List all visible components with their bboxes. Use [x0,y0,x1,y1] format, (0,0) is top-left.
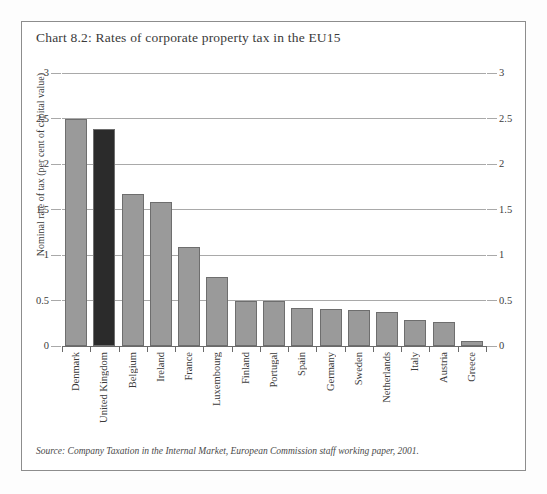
x-label-spain: Spain [296,352,307,376]
x-label-sweden: Sweden [353,352,364,385]
x-label-portugal: Portugal [268,352,279,388]
tick-stub-right-2 [487,164,497,165]
tick-stub-left-2.5 [51,118,61,119]
x-label-france: France [183,352,194,381]
x-label-greece: Greece [466,352,477,382]
y-tick-label-left-3: 3 [44,68,49,79]
x-label-finland: Finland [240,352,251,384]
y-tick-label-left-1.5: 1.5 [36,205,49,216]
source-note: Source: Company Taxation in the Internal… [36,446,419,456]
y-tick-label-left-2.5: 2.5 [36,114,49,125]
y-tick-label-right-3: 3 [499,68,504,79]
tick-stub-right-0 [487,346,497,347]
chart-page: Chart 8.2: Rates of corporate property t… [0,0,547,494]
bar-italy [404,320,426,346]
x-label-ireland: Ireland [155,352,166,382]
y-axis-title-text: Nominal rate of tax (per cent of capital… [35,73,46,274]
y-tick-label-right-1.5: 1.5 [499,205,512,216]
bars-layer [62,73,486,346]
y-tick-label-left-1: 1 [44,250,49,261]
x-label-italy: Italy [409,352,420,371]
tick-stub-left-1 [51,255,61,256]
bar-united-kingdom [93,129,115,346]
bar-portugal [263,301,285,347]
bar-france [178,247,200,346]
bar-sweden [348,310,370,346]
tick-stub-right-3 [487,73,497,74]
chart-title: Chart 8.2: Rates of corporate property t… [36,30,341,46]
y-tick-label-left-0.5: 0.5 [36,296,49,307]
y-tick-label-left-0: 0 [44,341,49,352]
y-tick-label-right-1: 1 [499,250,504,261]
x-axis-line [62,346,486,347]
bar-denmark [65,119,87,347]
tick-stub-left-0.5 [51,300,61,301]
tick-stub-right-1 [487,255,497,256]
x-label-denmark: Denmark [70,352,81,391]
tick-stub-right-2.5 [487,118,497,119]
tick-stub-left-3 [51,73,61,74]
plot-area: 000.50.5111.51.5222.52.533 [62,73,486,346]
bar-belgium [122,194,144,346]
tick-stub-left-0 [51,346,61,347]
x-label-austria: Austria [438,352,449,383]
y-tick-label-right-2: 2 [499,159,504,170]
tick-stub-right-1.5 [487,209,497,210]
bar-germany [320,309,342,346]
y-tick-label-right-2.5: 2.5 [499,114,512,125]
y-tick-label-right-0: 0 [499,341,504,352]
x-label-germany: Germany [325,352,336,391]
tick-stub-left-2 [51,164,61,165]
bar-netherlands [376,312,398,346]
y-tick-label-right-0.5: 0.5 [499,296,512,307]
bar-finland [235,301,257,347]
bar-luxembourg [206,277,228,346]
y-tick-label-left-2: 2 [44,159,49,170]
tick-stub-left-1.5 [51,209,61,210]
x-label-united-kingdom: United Kingdom [98,352,109,423]
bar-ireland [150,202,172,346]
x-axis-labels: DenmarkUnited KingdomBelgiumIrelandFranc… [62,352,486,448]
tick-stub-right-0.5 [487,300,497,301]
x-label-luxembourg: Luxembourg [211,352,222,406]
x-label-netherlands: Netherlands [381,352,392,403]
x-tick-14 [486,346,487,352]
bar-spain [291,308,313,346]
bar-austria [433,322,455,346]
x-label-belgium: Belgium [127,352,138,388]
